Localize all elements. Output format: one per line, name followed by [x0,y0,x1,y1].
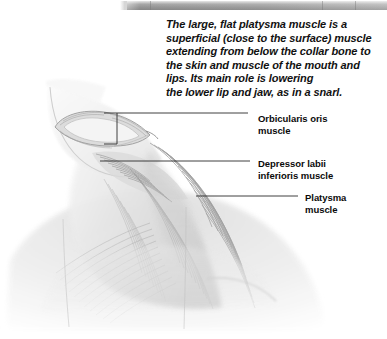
screenshot-canvas: The large, flat platysma muscle is a sup… [0,0,387,339]
label-line: muscle [258,125,327,137]
caption-line: The large, flat platysma muscle is a [166,18,381,32]
label-line: Platysma [305,192,346,204]
label-orbicularis-oris: Orbicularis oris muscle [258,113,327,136]
chrome-bar-tick [150,1,151,10]
label-line: muscle [305,204,346,216]
caption-line: the skin and muscle of the mouth and [166,59,381,73]
chrome-bar-tick [322,1,323,10]
label-line: Orbicularis oris [258,113,327,125]
label-platysma: Platysma muscle [305,192,346,215]
label-line: Depressor labii [258,158,333,170]
chrome-bar-left-cap [124,1,127,10]
caption-text: The large, flat platysma muscle is a sup… [166,18,381,100]
caption-line: lips. Its main role is lowering [166,72,381,86]
label-line: inferioris muscle [258,170,333,182]
window-chrome-bar [0,0,387,11]
chrome-bar-gloss [124,1,387,10]
caption-line: superficial (close to the surface) muscl… [166,32,381,46]
caption-line: the lower lip and jaw, as in a snarl. [166,86,381,100]
chrome-bar-tick [355,1,356,10]
label-depressor-labii-inferioris: Depressor labii inferioris muscle [258,158,333,181]
caption-line: extending from below the collar bone to [166,45,381,59]
